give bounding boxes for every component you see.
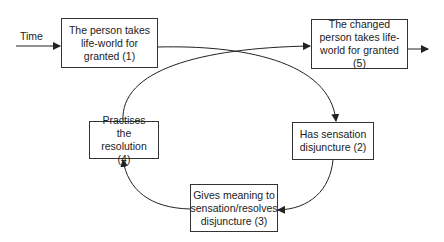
- node-1-text: The person takes life-world for granted …: [66, 24, 153, 63]
- node-5-changed-person: The changed person takes life-world for …: [311, 19, 408, 69]
- node-1-takes-for-granted: The person takes life-world for granted …: [61, 18, 158, 68]
- node-5-text: The changed person takes life-world for …: [316, 18, 403, 70]
- edge-2-to-3: [278, 160, 333, 210]
- node-2-sensation-disjuncture: Has sensation disjuncture (2): [292, 122, 374, 160]
- time-label: Time: [20, 30, 43, 42]
- edge-1-to-2: [158, 47, 336, 121]
- node-4-text: Practises the resolution (4): [94, 114, 154, 166]
- node-4-practises-resolution: Practises the resolution (4): [89, 121, 159, 159]
- node-3-text: Gives meaning to sensation/resolves disj…: [191, 189, 278, 228]
- node-3-gives-meaning: Gives meaning to sensation/resolves disj…: [190, 184, 278, 232]
- edge-3-to-4: [123, 160, 190, 209]
- node-2-text: Has sensation disjuncture (2): [297, 128, 369, 154]
